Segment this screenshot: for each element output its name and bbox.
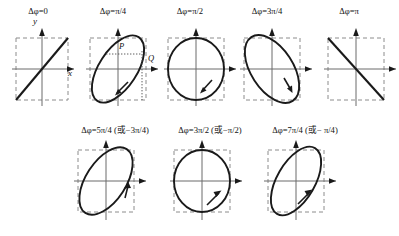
panel-label-p4: Δφ=3π/4 <box>231 6 303 16</box>
panel-p7 <box>166 136 256 234</box>
x-axis-arrowhead <box>305 66 312 72</box>
y-axis-arrowhead <box>103 140 109 148</box>
x-axis-arrowhead <box>139 178 146 184</box>
panel-p7-svg <box>166 136 256 234</box>
y-axis-arrowhead <box>269 28 275 36</box>
panel-p1: y x <box>4 18 80 114</box>
panel-label-p2: Δφ=π/4 <box>80 6 146 16</box>
y-axis-arrowhead <box>39 28 45 36</box>
x-axis-arrowhead <box>151 66 158 72</box>
panel-label-p5: Δφ=π <box>318 6 380 16</box>
panel-p8-svg <box>256 136 350 234</box>
panel-p6 <box>70 136 160 234</box>
x-axis-arrowhead <box>229 66 236 72</box>
panel-label-p8: Δφ=7π/4 (或− π/4) <box>252 123 358 135</box>
panel-label-p6: Δφ=5π/4 (或−3π/4) <box>60 123 170 135</box>
x-axis-arrowhead <box>329 178 336 184</box>
x-axis-label: x <box>68 68 72 78</box>
panel-p4-svg <box>236 18 320 114</box>
panel-label-p1: Δφ=0 <box>8 6 68 16</box>
x-axis-arrowhead <box>389 66 396 72</box>
y-axis-arrowhead <box>193 28 199 36</box>
panel-label-p3: Δφ=π/2 <box>157 6 223 16</box>
panel-p2: P Q <box>82 18 166 114</box>
y-axis-arrowhead <box>353 28 359 36</box>
x-axis-arrowhead <box>235 178 242 184</box>
panel-p5 <box>316 18 399 114</box>
y-axis-arrowhead <box>115 28 121 36</box>
lissajous-figure-panel-grid: Δφ=0 y x Δφ=π/4 <box>0 0 399 236</box>
panel-p2-svg <box>82 18 166 114</box>
y-axis-arrowhead <box>293 140 299 148</box>
y-axis-label: y <box>33 16 37 26</box>
panel-p6-svg <box>70 136 160 234</box>
y-axis-arrowhead <box>199 140 205 148</box>
panel-p1-svg <box>4 18 80 114</box>
panel-label-p7: Δφ=3π/2 (或−π/2) <box>158 123 262 135</box>
point-label-p: P <box>119 41 124 51</box>
panel-p5-svg <box>316 18 399 114</box>
point-label-q: Q <box>148 53 154 63</box>
panel-p8 <box>256 136 350 234</box>
panel-p3-svg <box>160 18 244 114</box>
panel-p4 <box>236 18 320 114</box>
panel-p3 <box>160 18 244 114</box>
direction-arrow-head <box>214 191 222 198</box>
